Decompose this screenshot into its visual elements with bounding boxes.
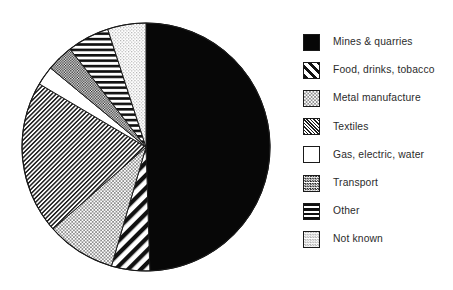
legend-swatch-light-dots-icon <box>303 231 320 248</box>
legend-label: Transport <box>333 178 378 188</box>
legend-item-metal-manufacture[interactable]: Metal manufacture <box>303 84 453 112</box>
legend-item-transport[interactable]: Transport <box>303 169 453 197</box>
pie-chart-svg <box>0 0 290 290</box>
legend-item-mines-quarries[interactable]: Mines & quarries <box>303 28 453 56</box>
legend-swatch-white-empty-icon <box>303 146 320 163</box>
pie-slice[interactable] <box>146 23 270 271</box>
pie-chart-area <box>0 0 290 290</box>
legend-item-gas-electric-water[interactable]: Gas, electric, water <box>303 141 453 169</box>
legend-swatch-bold-diagonal-icon <box>303 62 320 79</box>
legend-swatch-light-checker-icon <box>303 90 320 107</box>
legend-label: Gas, electric, water <box>333 150 424 160</box>
legend-label: Textiles <box>333 122 369 132</box>
legend-swatch-fine-diagonal-icon <box>303 118 320 135</box>
chart-legend: Mines & quarries Food, drinks, tobacco M… <box>303 28 453 254</box>
legend-label: Metal manufacture <box>333 93 421 103</box>
legend-item-not-known[interactable]: Not known <box>303 225 453 253</box>
legend-label: Other <box>333 206 360 216</box>
legend-swatch-horizontal-lines-icon <box>303 203 320 220</box>
legend-label: Not known <box>333 234 383 244</box>
legend-item-other[interactable]: Other <box>303 197 453 225</box>
legend-label: Mines & quarries <box>333 37 413 47</box>
legend-item-textiles[interactable]: Textiles <box>303 113 453 141</box>
pie-slices-group <box>22 23 270 271</box>
legend-swatch-solid-black-icon <box>303 34 320 51</box>
legend-label: Food, drinks, tobacco <box>333 65 435 75</box>
legend-swatch-dark-checker-icon <box>303 175 320 192</box>
legend-item-food-drinks-tobacco[interactable]: Food, drinks, tobacco <box>303 56 453 84</box>
pie-chart-figure: Mines & quarries Food, drinks, tobacco M… <box>0 0 453 290</box>
